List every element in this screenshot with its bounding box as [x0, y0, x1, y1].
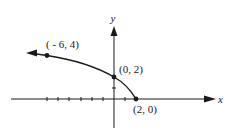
y-axis-label: y [110, 12, 116, 24]
curve [33, 54, 136, 100]
label-point-0-2: (0, 2) [119, 63, 143, 76]
x-axis-label: x [217, 93, 223, 105]
curve-left-arrow-icon [26, 50, 37, 57]
point-2-0 [134, 97, 139, 102]
point-0-2 [112, 75, 117, 80]
point-neg6-4 [45, 53, 50, 58]
y-axis-arrow-icon [111, 26, 118, 36]
label-point-2-0: (2, 0) [133, 103, 157, 116]
label-point-neg6-4: ( - 6, 4) [46, 38, 79, 51]
x-axis-arrow-icon [204, 96, 216, 103]
graph: x y ( - 6, 4) (0, 2) (2, 0) [0, 0, 227, 137]
